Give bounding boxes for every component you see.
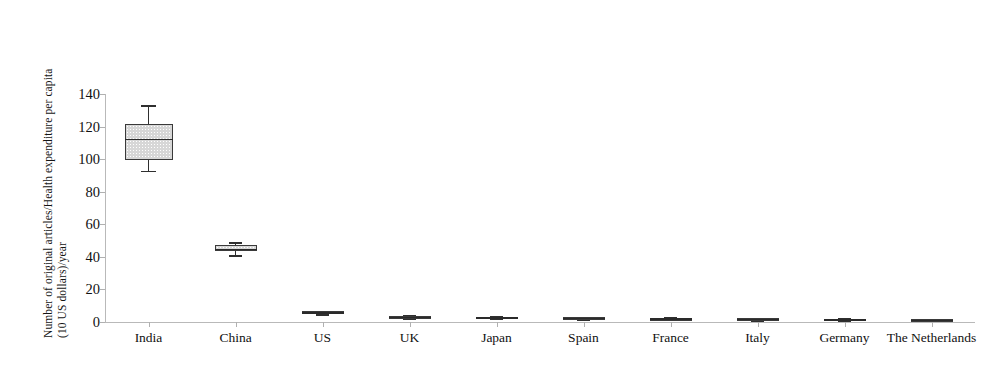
y-axis-tick-mark [100, 257, 105, 258]
x-axis-tick-label: Spain [568, 330, 599, 346]
y-axis-tick-label: 100 [64, 152, 100, 167]
y-axis-tick-mark [100, 322, 105, 323]
x-axis-tick-mark [584, 322, 585, 327]
x-axis-tick-mark [410, 322, 411, 327]
median-line [737, 319, 779, 321]
median-line [650, 318, 692, 320]
x-axis-tick-label: The Netherlands [887, 330, 977, 346]
x-axis-tick-label: France [652, 330, 689, 346]
y-axis-tick-labels: 020406080100120140 [60, 0, 100, 370]
y-axis-line [105, 94, 106, 322]
x-axis-tick-label: Japan [481, 330, 512, 346]
x-axis-tick-label: India [135, 330, 163, 346]
y-axis-title: Number of original articles/Health expen… [0, 0, 60, 340]
x-axis-tick-mark [845, 322, 846, 327]
y-axis-title-line-1: Number of original articles/Health expen… [42, 69, 54, 338]
median-line [302, 312, 344, 314]
y-axis-tick-label: 0 [64, 315, 100, 330]
y-axis-tick-label: 40 [64, 250, 100, 265]
median-line [215, 249, 257, 251]
x-axis-tick-label: Italy [745, 330, 770, 346]
box-plot-uk [389, 94, 431, 322]
median-line [911, 320, 953, 322]
x-axis-tick-label: China [219, 330, 251, 346]
cap-lower [316, 314, 329, 316]
y-axis-tick-label: 60 [64, 217, 100, 232]
box-plot-japan [476, 94, 518, 322]
box-plot-germany [824, 94, 866, 322]
y-axis-tick-mark [100, 192, 105, 193]
box-plot-italy [737, 94, 779, 322]
x-axis-tick-mark [758, 322, 759, 327]
x-axis-tick-labels: IndiaChinaUSUKJapanSpainFranceItalyGerma… [105, 330, 975, 354]
boxplot-chart: Number of original articles/Health expen… [0, 0, 988, 370]
y-axis-tick-label: 80 [64, 185, 100, 200]
y-axis-tick-label: 20 [64, 282, 100, 297]
y-axis-tick-label: 140 [64, 87, 100, 102]
median-line [125, 139, 173, 141]
x-axis-tick-label: UK [400, 330, 420, 346]
box-plot-the-netherlands [911, 94, 953, 322]
box-plot-china [215, 94, 257, 322]
x-axis-tick-mark [323, 322, 324, 327]
box-plot-france [650, 94, 692, 322]
x-axis-tick-mark [149, 322, 150, 327]
x-axis-tick-mark [932, 322, 933, 327]
cap-lower [141, 171, 155, 173]
y-axis-tick-mark [100, 224, 105, 225]
box-plot-spain [563, 94, 605, 322]
x-axis-tick-label: US [314, 330, 331, 346]
y-axis-tick-mark [100, 127, 105, 128]
whisker-lower [148, 160, 149, 171]
y-axis-tick-mark [100, 289, 105, 290]
y-axis-tick-label: 120 [64, 120, 100, 135]
y-axis-tick-mark [100, 94, 105, 95]
cap-upper [229, 242, 242, 244]
plot-area [105, 94, 975, 322]
whisker-upper [148, 105, 149, 124]
median-line [824, 319, 866, 321]
median-line [476, 317, 518, 319]
box-iqr [125, 124, 173, 160]
x-axis-tick-label: Germany [819, 330, 869, 346]
median-line [563, 318, 605, 320]
box-plot-us [302, 94, 344, 322]
median-line [389, 317, 431, 319]
cap-lower [229, 255, 242, 257]
x-axis-tick-mark [236, 322, 237, 327]
y-axis-tick-mark [100, 159, 105, 160]
cap-upper [141, 105, 155, 107]
x-axis-tick-mark [497, 322, 498, 327]
box-plot-india [125, 94, 173, 322]
x-axis-tick-mark [671, 322, 672, 327]
